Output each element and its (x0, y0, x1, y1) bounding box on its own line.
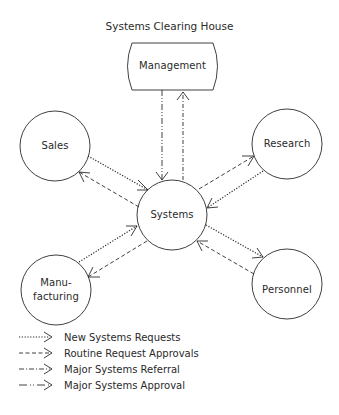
edge-systems-sales (79, 172, 139, 207)
legend-label: Major Systems Referral (64, 364, 180, 375)
arrowhead (252, 248, 263, 258)
dashed-arrow-icon (18, 347, 58, 359)
edge-systems-research (199, 156, 254, 189)
legend-item-routine-request-approvals: Routine Request Approvals (18, 346, 199, 360)
legend-item-major-systems-referral: Major Systems Referral (18, 362, 180, 376)
research-label: Research (252, 138, 322, 150)
legend-item-major-systems-approval: Major Systems Approval (18, 378, 185, 392)
manufacturing-label-line1: Manu- (21, 277, 91, 289)
manufacturing-circle (21, 255, 91, 325)
edge-research-systems (207, 171, 263, 208)
systems-label: Systems (137, 209, 207, 221)
legend-item-new-systems-requests: New Systems Requests (18, 330, 181, 344)
personnel-label: Personnel (252, 284, 322, 296)
edge-systems-manufacturing (88, 241, 147, 277)
arrowhead (126, 226, 137, 236)
edge-sales-systems (88, 156, 148, 190)
arrowhead (137, 180, 148, 190)
dotted-arrow-icon (18, 331, 58, 343)
management-label: Management (122, 60, 223, 72)
sales-label: Sales (20, 140, 90, 152)
edge-personnel-systems (197, 241, 254, 274)
legend-label: Major Systems Approval (64, 380, 185, 391)
dash-dot-dot-arrow-icon (18, 379, 58, 391)
dash-dot-arrow-icon (18, 363, 58, 375)
edge-manufacturing-systems (79, 226, 137, 262)
legend-label: New Systems Requests (64, 332, 181, 343)
manufacturing-label-line2: facturing (21, 291, 91, 303)
edge-systems-personnel (206, 225, 263, 257)
legend-label: Routine Request Approvals (64, 348, 199, 359)
